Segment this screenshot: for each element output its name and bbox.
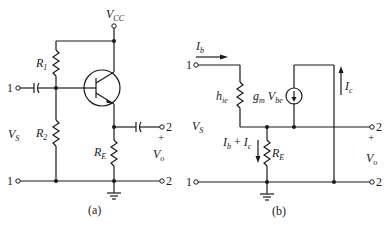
ib-label: Ib xyxy=(195,39,204,55)
r2-resistor xyxy=(53,120,59,146)
re-resistor xyxy=(111,140,117,166)
figure-b-small-signal-model: Ib 1 hie 2 + Vo gmVbe Ic xyxy=(186,39,382,218)
caption-a: (a) xyxy=(88,203,101,217)
b-terminal-2-label: 2 xyxy=(376,120,382,134)
b-output-terminal-2 xyxy=(370,125,374,129)
terminal-2-bottom-label: 2 xyxy=(166,174,172,188)
vcc-terminal xyxy=(112,24,116,28)
ic-label: Ic xyxy=(344,79,353,95)
gm-vbe-label: gmVbe xyxy=(253,89,283,105)
input-terminal-1-bottom xyxy=(16,179,20,183)
b-output-terminal-2-bottom xyxy=(370,180,374,184)
figure-a-emitter-follower: VCC R1 1 2 + xyxy=(7,7,172,217)
b-terminal-1-bottom-label: 1 xyxy=(186,175,192,189)
b-vo-label: Vo xyxy=(366,151,377,167)
ground-icon xyxy=(107,193,121,199)
b-input-terminal-1 xyxy=(194,63,198,67)
b-vs-label: VS xyxy=(192,119,203,135)
vo-plus: + xyxy=(158,131,164,143)
re-label: RE xyxy=(93,145,106,161)
caption-b: (b) xyxy=(272,204,286,218)
b-ground-icon xyxy=(260,194,274,200)
b-input-terminal-1-bottom xyxy=(194,180,198,184)
circuit-figure: VCC R1 1 2 + xyxy=(0,0,385,225)
b-re-label: RE xyxy=(271,146,284,162)
r1-resistor xyxy=(53,50,59,76)
terminal-2-label: 2 xyxy=(166,120,172,134)
vo-label: Vo xyxy=(153,147,164,163)
terminal-1-label: 1 xyxy=(7,81,13,95)
r2-label: R2 xyxy=(35,126,47,142)
vcc-label: VCC xyxy=(106,7,125,23)
b-vo-plus: + xyxy=(368,131,374,143)
b-terminal-2-bottom-label: 2 xyxy=(376,175,382,189)
down-arrow-icon xyxy=(292,97,297,102)
output-terminal-2 xyxy=(160,125,164,129)
hie-label: hie xyxy=(216,89,228,105)
output-terminal-2-bottom xyxy=(160,179,164,183)
input-terminal-1 xyxy=(16,86,20,90)
terminal-1-bottom-label: 1 xyxy=(7,174,13,188)
vs-label: VS xyxy=(8,127,19,143)
r1-label: R1 xyxy=(35,56,47,72)
b-re-resistor xyxy=(264,140,270,166)
b-terminal-1-label: 1 xyxy=(186,58,192,72)
hie-resistor xyxy=(237,82,243,108)
ib-plus-ic-label: Ib + Ic xyxy=(222,135,252,151)
